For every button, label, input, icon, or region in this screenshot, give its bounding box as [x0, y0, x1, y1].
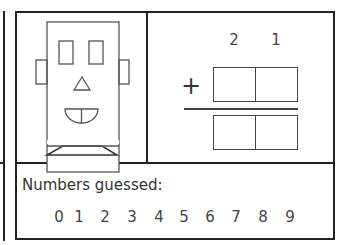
robot-right-ear: [119, 60, 129, 84]
guessed-digit-1: 1: [71, 208, 87, 226]
guessed-digit-9: 9: [282, 208, 298, 226]
guessed-digit-3: 3: [124, 208, 140, 226]
top-digit-ones: 1: [268, 31, 284, 49]
sum-box-tens[interactable]: [213, 115, 256, 150]
guessed-digit-6: 6: [202, 208, 218, 226]
guessed-digit-2: 2: [97, 208, 113, 226]
top-digit-tens: 2: [226, 31, 242, 49]
guessed-digit-8: 8: [255, 208, 271, 226]
guessed-digit-0: 0: [51, 208, 67, 226]
sum-line: [184, 108, 298, 110]
addend-box-tens[interactable]: [213, 67, 256, 102]
guessed-digit-7: 7: [228, 208, 244, 226]
plus-sign: +: [181, 74, 201, 98]
numbers-guessed-label: Numbers guessed:: [22, 176, 163, 194]
guessed-digit-5: 5: [176, 208, 192, 226]
addend-box-ones[interactable]: [255, 67, 298, 102]
guessed-digit-4: 4: [151, 208, 167, 226]
robot-left-ear: [36, 60, 47, 84]
sum-box-ones[interactable]: [255, 115, 298, 150]
